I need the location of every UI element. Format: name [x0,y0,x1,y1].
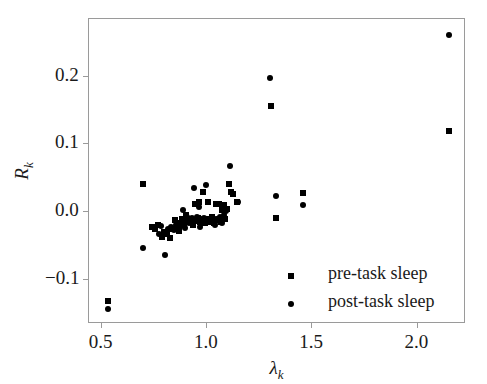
x-axis-title: λk [270,357,284,383]
y-axis-title: Rk [11,162,37,179]
y-tick-label: −0.1 [45,267,79,289]
x-tick-mark [101,323,102,328]
y-tick-label: 0.0 [55,199,79,221]
data-point [300,190,306,196]
data-point [105,298,111,304]
x-tick-mark [206,323,207,328]
data-point [200,189,206,195]
data-point [180,207,186,213]
y-tick-mark [83,76,88,77]
data-point [196,204,202,210]
data-point [446,128,452,134]
data-point [205,199,211,205]
figure-page: 0.51.01.52.0−0.10.00.10.2 λk Rk pre-task… [0,0,487,384]
data-point [182,225,188,231]
y-tick-mark [83,279,88,280]
x-tick-mark [311,323,312,328]
data-point [273,215,279,221]
x-tick-label: 1.5 [299,331,323,353]
x-tick-label: 0.5 [89,331,113,353]
data-point [267,75,273,81]
x-tick-label: 1.0 [194,331,218,353]
data-point [230,191,236,197]
legend-label: pre-task sleep [328,263,427,284]
data-point [446,32,452,38]
data-point [191,185,197,191]
y-tick-label: 0.1 [55,131,79,153]
data-point [140,181,146,187]
x-tick-label: 2.0 [405,331,429,353]
data-point [223,208,229,214]
x-axis-title-base: λ [270,357,278,378]
data-point [227,163,233,169]
y-tick-mark [83,211,88,212]
data-point [226,181,232,187]
y-axis-title-subscript: k [21,162,36,168]
y-axis-title-wrapper: Rk [11,162,37,179]
y-tick-label: 0.2 [55,64,79,86]
legend-label: post-task sleep [328,291,434,312]
y-axis-title-base: R [11,168,32,180]
data-point [167,235,173,241]
x-axis-title-subscript: k [278,367,284,382]
y-tick-mark [83,143,88,144]
legend-marker-square-icon [288,273,294,279]
scatter-plot-figure: 0.51.01.52.0−0.10.00.10.2 λk Rk pre-task… [0,0,487,384]
data-point [268,103,274,109]
data-point [156,231,162,237]
legend-marker-circle-icon [288,301,294,307]
x-tick-mark [417,323,418,328]
data-point [300,202,306,208]
